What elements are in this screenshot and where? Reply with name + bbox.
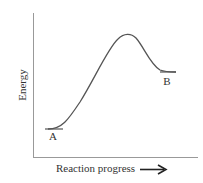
arrow-right-icon (140, 165, 166, 174)
energy-diagram-canvas (0, 0, 203, 183)
point-label-b: B (163, 75, 170, 87)
point-label-a: A (49, 130, 57, 142)
energy-diagram: Energy Reaction progress A B (0, 0, 203, 183)
y-axis-label: Energy (16, 69, 28, 101)
x-axis-label: Reaction progress (56, 162, 135, 174)
energy-curve (48, 34, 176, 129)
